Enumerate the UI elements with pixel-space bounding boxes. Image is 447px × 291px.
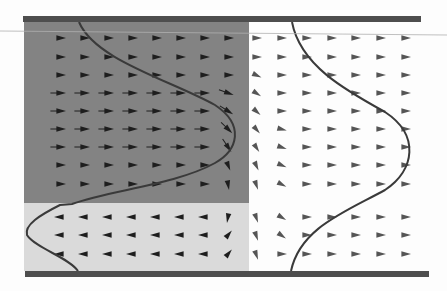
light-fluid-region — [24, 203, 249, 271]
flow-field-figure — [0, 0, 447, 291]
bottom-wall — [25, 271, 429, 277]
top-wall — [23, 16, 421, 22]
flow-field-diagram — [0, 0, 447, 291]
